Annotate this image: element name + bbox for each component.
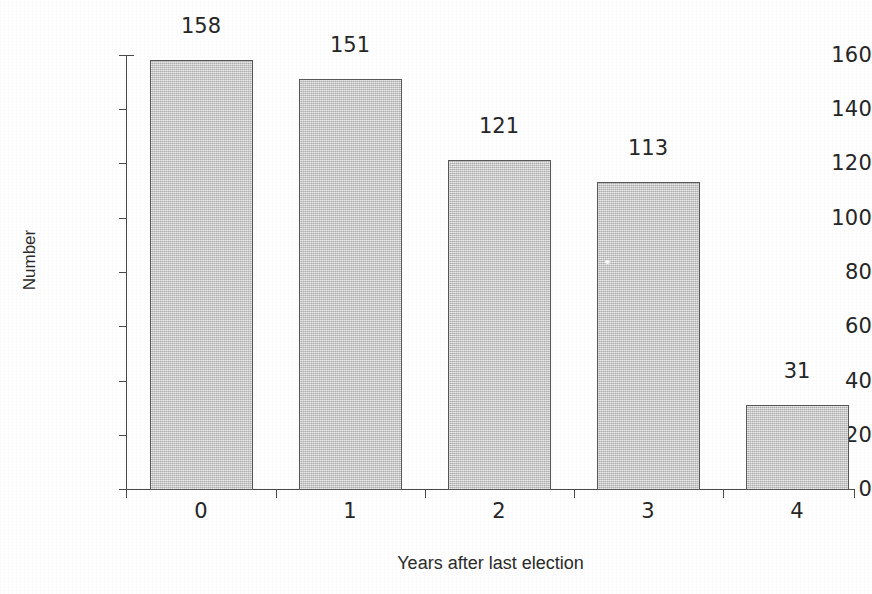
x-axis-tick-label-4: 4 bbox=[767, 501, 827, 522]
paper-grain-overlay bbox=[0, 0, 872, 594]
bar-category-2 bbox=[448, 160, 551, 490]
y-axis-tick-80 bbox=[119, 272, 127, 273]
x-axis-tick-label-0: 0 bbox=[171, 501, 231, 522]
bar-category-1 bbox=[299, 79, 402, 490]
x-axis-tick-1 bbox=[276, 489, 277, 498]
x-axis-tick-3 bbox=[574, 489, 575, 498]
y-axis-tick-label-140: 140 bbox=[814, 99, 872, 120]
x-axis-title: Years after last election bbox=[126, 553, 855, 574]
x-axis-tick-4 bbox=[723, 489, 724, 498]
y-axis-tick-100 bbox=[119, 218, 127, 219]
x-axis-tick-2 bbox=[425, 489, 426, 498]
bar-category-4 bbox=[746, 405, 849, 490]
y-axis-tick-40 bbox=[119, 381, 127, 382]
x-axis-tick-label-1: 1 bbox=[320, 501, 380, 522]
bar-chart-figure: 160 140 120 100 80 60 40 20 0 158 151 12… bbox=[0, 0, 872, 594]
bar-value-label-0: 158 bbox=[141, 16, 261, 37]
y-axis-tick-label-60: 60 bbox=[814, 316, 872, 337]
bar-value-label-2: 121 bbox=[439, 116, 559, 137]
x-axis-tick-label-3: 3 bbox=[618, 501, 678, 522]
y-axis-tick-160 bbox=[119, 55, 134, 56]
x-axis-tick-start bbox=[126, 489, 127, 498]
bar-category-0 bbox=[150, 60, 253, 490]
y-axis-title: Number bbox=[20, 200, 40, 320]
y-axis-tick-120 bbox=[119, 163, 127, 164]
y-axis-tick-label-160: 160 bbox=[814, 45, 872, 66]
bar-value-label-4: 31 bbox=[737, 361, 857, 382]
y-axis-tick-label-120: 120 bbox=[814, 153, 872, 174]
y-axis-tick-label-80: 80 bbox=[814, 262, 872, 283]
bar-value-label-3: 113 bbox=[588, 138, 708, 159]
x-axis-tick-label-2: 2 bbox=[469, 501, 529, 522]
scan-artifact-speck bbox=[605, 260, 610, 264]
y-axis-tick-20 bbox=[119, 435, 127, 436]
y-axis-tick-60 bbox=[119, 326, 127, 327]
x-axis-tick-end bbox=[854, 489, 855, 498]
y-axis-tick-label-100: 100 bbox=[814, 208, 872, 229]
y-axis-tick-140 bbox=[119, 109, 127, 110]
bar-value-label-1: 151 bbox=[290, 35, 410, 56]
bar-category-3 bbox=[597, 182, 700, 490]
